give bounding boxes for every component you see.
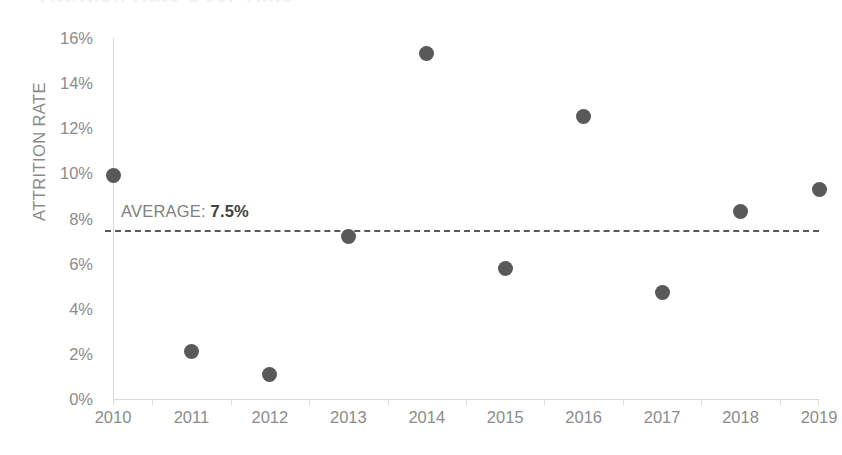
y-axis-tick-label: 0% [39, 390, 93, 409]
x-axis-tick-mark [231, 399, 232, 405]
data-point[interactable] [733, 204, 748, 219]
y-axis-tick-label: 14% [39, 74, 93, 93]
x-axis-tick-mark [309, 399, 310, 405]
average-label-prefix: AVERAGE: [121, 202, 211, 220]
x-axis-tick-label: 2010 [73, 408, 153, 427]
x-axis-tick-mark [113, 399, 114, 405]
data-point[interactable] [419, 46, 434, 61]
x-axis-tick-label: 2019 [779, 408, 842, 427]
data-point[interactable] [655, 285, 670, 300]
x-axis-tick-mark [701, 399, 702, 405]
x-axis-tick-mark [818, 399, 819, 405]
x-axis-tick-label: 2018 [701, 408, 781, 427]
data-point[interactable] [812, 182, 827, 197]
chart-title: Attrition Rate Over Time [40, 0, 293, 7]
x-axis-tick-label: 2011 [151, 408, 231, 427]
y-axis-line [113, 38, 114, 399]
x-axis-tick-label: 2015 [465, 408, 545, 427]
x-axis-tick-mark [388, 399, 389, 405]
data-point[interactable] [576, 109, 591, 124]
x-axis-tick-mark [466, 399, 467, 405]
x-axis-tick-label: 2016 [544, 408, 624, 427]
x-axis-tick-mark [780, 399, 781, 405]
y-axis-tick-label: 8% [39, 209, 93, 228]
y-axis-tick-label: 10% [39, 164, 93, 183]
y-axis-tick-label: 16% [39, 29, 93, 48]
y-axis-tick-label: 4% [39, 299, 93, 318]
data-point[interactable] [106, 168, 121, 183]
data-point[interactable] [184, 344, 199, 359]
x-axis-tick-label: 2017 [622, 408, 702, 427]
data-point[interactable] [262, 367, 277, 382]
data-point[interactable] [341, 229, 356, 244]
average-reference-label: AVERAGE: 7.5% [121, 202, 249, 221]
y-axis-title: ATTRITION RATE [30, 37, 49, 267]
x-axis-tick-label: 2012 [230, 408, 310, 427]
x-axis-tick-label: 2013 [308, 408, 388, 427]
y-axis-tick-label: 12% [39, 119, 93, 138]
x-axis-tick-mark [623, 399, 624, 405]
x-axis-tick-label: 2014 [387, 408, 467, 427]
plot-area: 16%14%12%10%8%6%4%2%0%201020112012201320… [113, 38, 819, 399]
y-axis-tick-label: 2% [39, 344, 93, 363]
x-axis-tick-mark [152, 399, 153, 405]
y-axis-tick-label: 6% [39, 254, 93, 273]
average-reference-line [105, 230, 819, 232]
x-axis-tick-mark [544, 399, 545, 405]
average-label-value: 7.5% [211, 202, 249, 220]
data-point[interactable] [498, 261, 513, 276]
